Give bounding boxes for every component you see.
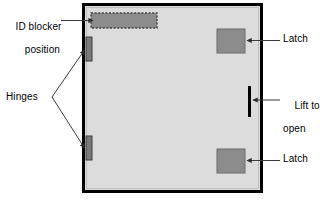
hinge-upper-part xyxy=(86,37,92,61)
label-id-blocker-line2: position xyxy=(4,44,60,56)
latch-bottom-part xyxy=(217,149,245,173)
label-id-blocker: ID blocker position xyxy=(4,9,60,78)
hinge-lower-part xyxy=(86,136,92,160)
leader-line-hinge-lower xyxy=(52,97,85,148)
id-blocker-part xyxy=(91,13,157,28)
label-lift-line1: Lift to xyxy=(295,100,320,111)
label-latch-bottom: Latch xyxy=(283,153,308,165)
label-id-blocker-line1: ID blocker xyxy=(16,21,62,32)
label-lift-to-open: Lift to open xyxy=(283,88,319,157)
lift-handle-part xyxy=(248,86,251,117)
latch-top-part xyxy=(217,29,245,53)
label-hinges: Hinges xyxy=(6,91,38,103)
diagram-root: ID blocker position Hinges Latch Lift to… xyxy=(0,0,321,199)
label-lift-line2: open xyxy=(283,123,319,135)
label-latch-top: Latch xyxy=(283,33,308,45)
